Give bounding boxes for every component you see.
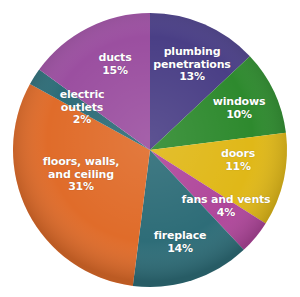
pie-chart-svg [0,0,300,297]
pie-chart: plumbing penetrations 13% windows 10% do… [0,0,300,297]
pie-shading-overlay [13,13,287,287]
